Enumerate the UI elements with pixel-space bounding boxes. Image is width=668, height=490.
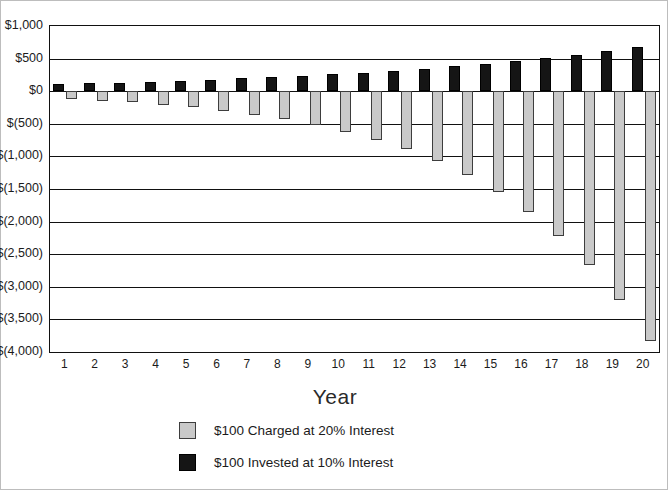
bar-charged [218, 91, 229, 110]
legend-item[interactable]: $100 Charged at 20% Interest [179, 417, 499, 443]
x-axis-tick-label: 12 [392, 357, 405, 371]
bar-invested [53, 84, 64, 91]
bar-invested [205, 80, 216, 92]
bar-charged [401, 91, 412, 149]
bar-charged [493, 91, 504, 191]
bar-invested [480, 64, 491, 91]
bar-group [629, 26, 659, 352]
bar-invested [540, 58, 551, 91]
bar-invested [632, 47, 643, 91]
x-axis-title: Year [1, 385, 668, 409]
legend-swatch-invested [179, 454, 196, 471]
x-axis-tick-label: 16 [514, 357, 527, 371]
bar-charged [249, 91, 260, 114]
bar-charged [645, 91, 656, 341]
bar-group [324, 26, 354, 352]
bar-charged [66, 91, 77, 99]
bar-charged [462, 91, 473, 175]
bar-charged [340, 91, 351, 131]
y-axis-tick-label: $(4,000) [0, 344, 43, 358]
legend-swatch-charged [179, 422, 196, 439]
bar-group [355, 26, 385, 352]
bar-group [172, 26, 202, 352]
y-axis-tick-label: $(1,500) [0, 181, 43, 195]
y-axis-tick-label: $(2,500) [0, 246, 43, 260]
x-axis-tick-label: 10 [332, 357, 345, 371]
bar-invested [449, 66, 460, 91]
y-axis-tick-label: $1,000 [5, 18, 43, 32]
x-axis-tick-label: 3 [122, 357, 129, 371]
x-axis-tick-label: 9 [304, 357, 311, 371]
bar-invested [114, 83, 125, 92]
bar-group [111, 26, 141, 352]
bar-group [507, 26, 537, 352]
bar-invested [358, 73, 369, 92]
bar-group [141, 26, 171, 352]
bar-charged [279, 91, 290, 119]
bar-charged [310, 91, 321, 125]
bar-invested [145, 82, 156, 92]
bar-charged [553, 91, 564, 236]
bar-group [598, 26, 628, 352]
bar-charged [432, 91, 443, 161]
x-axis-tick-label: 1 [61, 357, 68, 371]
bar-group [385, 26, 415, 352]
x-axis-tick-label: 2 [91, 357, 98, 371]
bar-group [263, 26, 293, 352]
bar-group [80, 26, 110, 352]
y-axis-tick-label: $(3,000) [0, 279, 43, 293]
x-axis-tick-label: 5 [183, 357, 190, 371]
bar-group [476, 26, 506, 352]
bar-charged [97, 91, 108, 100]
bar-group [415, 26, 445, 352]
bar-charged [158, 91, 169, 104]
bar-charged [188, 91, 199, 107]
legend-label: $100 Invested at 10% Interest [214, 455, 393, 470]
x-axis-tick-label: 17 [545, 357, 558, 371]
legend-label: $100 Charged at 20% Interest [214, 423, 394, 438]
bar-invested [297, 76, 308, 91]
bar-invested [601, 51, 612, 91]
bar-charged [614, 91, 625, 299]
bar-group [568, 26, 598, 352]
y-axis-tick-label: $0 [29, 83, 43, 97]
x-axis-tick-label: 7 [244, 357, 251, 371]
bar-invested [266, 77, 277, 91]
bar-charged [371, 91, 382, 139]
x-axis-tick-label: 14 [453, 357, 466, 371]
bar-group [537, 26, 567, 352]
y-axis-tick-label: $(1,000) [0, 148, 43, 162]
plot-area [49, 25, 660, 353]
x-axis-tick-label: 15 [484, 357, 497, 371]
x-axis-tick-label: 20 [636, 357, 649, 371]
gridline [50, 352, 659, 353]
x-axis-tick-label: 8 [274, 357, 281, 371]
legend-item[interactable]: $100 Invested at 10% Interest [179, 449, 499, 475]
bar-invested [236, 78, 247, 91]
y-axis-tick-label: $(500) [7, 116, 43, 130]
x-axis-tick-label: 6 [213, 357, 220, 371]
x-axis-tick-label: 11 [362, 357, 374, 371]
y-axis-tick-label: $500 [15, 51, 43, 65]
bar-charged [523, 91, 534, 212]
bar-charged [127, 91, 138, 102]
bar-invested [419, 69, 430, 91]
y-axis-tick-label: $(2,000) [0, 214, 43, 228]
chart-legend: $100 Charged at 20% Interest$100 Investe… [179, 417, 499, 481]
bar-invested [175, 81, 186, 91]
bar-group [50, 26, 80, 352]
bar-invested [327, 74, 338, 91]
bar-invested [84, 83, 95, 91]
x-axis-tick-label: 13 [423, 357, 436, 371]
bar-group [446, 26, 476, 352]
bar-invested [571, 55, 582, 91]
y-axis: $1,000$500$0$(500)$(1,000)$(1,500)$(2,00… [1, 1, 47, 490]
bar-invested [510, 61, 521, 91]
bars-layer [50, 26, 659, 352]
x-axis-tick-label: 4 [152, 357, 159, 371]
bar-charged [584, 91, 595, 265]
bar-group [294, 26, 324, 352]
x-axis-tick-label: 19 [606, 357, 619, 371]
x-axis-tick-label: 18 [575, 357, 588, 371]
bar-group [202, 26, 232, 352]
